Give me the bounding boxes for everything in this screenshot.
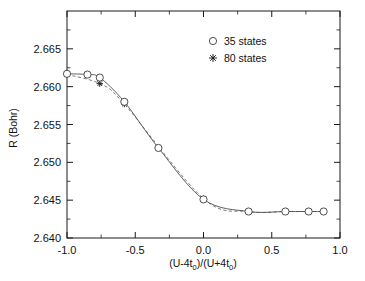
data-point-35-states: [96, 74, 103, 81]
data-point-35-states: [63, 70, 70, 77]
y-axis-title: R (Bohr): [7, 108, 19, 148]
series-markers-35-states: [63, 70, 327, 215]
y-tick-label: 2.645: [33, 194, 61, 206]
data-point-35-states: [200, 196, 207, 203]
data-series-layer: [63, 70, 327, 215]
plot-frame: [67, 11, 340, 238]
x-tick-label: 0.0: [196, 244, 211, 256]
y-tick-label: 2.650: [33, 156, 61, 168]
x-tick-label: -1.0: [58, 244, 77, 256]
x-axis-title-part1: (U-4t: [169, 257, 192, 269]
y-tick-label: 2.655: [33, 119, 61, 131]
y-axis-tick-labels: 2.6402.6452.6502.6552.6602.665: [33, 43, 61, 244]
legend-marker-plus-icon: [209, 54, 217, 62]
legend: 35 states 80 states: [209, 35, 267, 64]
legend-label-80-states: 80 states: [224, 52, 267, 64]
plot-svg: -1.0-0.50.00.51.0 2.6402.6452.6502.6552.…: [0, 0, 365, 281]
legend-marker-open-circle-icon: [209, 37, 216, 44]
data-point-35-states: [121, 98, 128, 105]
data-point-35-states: [320, 208, 327, 215]
data-point-35-states: [282, 208, 289, 215]
x-axis-title-part2: )/(U+4t: [197, 257, 229, 269]
data-point-35-states: [84, 71, 91, 78]
y-tick-label: 2.640: [33, 232, 61, 244]
data-point-35-states: [245, 208, 252, 215]
series-markers-80-states: [64, 71, 207, 201]
x-axis-tick-labels: -1.0-0.50.00.51.0: [58, 244, 348, 256]
x-tick-label: 0.5: [264, 244, 279, 256]
x-axis-title-part3: ): [233, 257, 237, 269]
y-axis-ticks: [67, 30, 340, 238]
x-tick-label: 1.0: [332, 244, 347, 256]
data-point-35-states: [155, 144, 162, 151]
y-tick-label: 2.665: [33, 43, 61, 55]
legend-label-35-states: 35 states: [224, 35, 267, 47]
x-axis-title: (U-4t0)/(U+4t0): [169, 257, 237, 272]
y-tick-label: 2.660: [33, 81, 61, 93]
x-tick-label: -0.5: [126, 244, 145, 256]
x-axis-ticks: [67, 11, 340, 238]
chart-figure: -1.0-0.50.00.51.0 2.6402.6452.6502.6552.…: [0, 0, 365, 281]
series-line-35-states: [67, 74, 324, 213]
data-point-35-states: [305, 208, 312, 215]
